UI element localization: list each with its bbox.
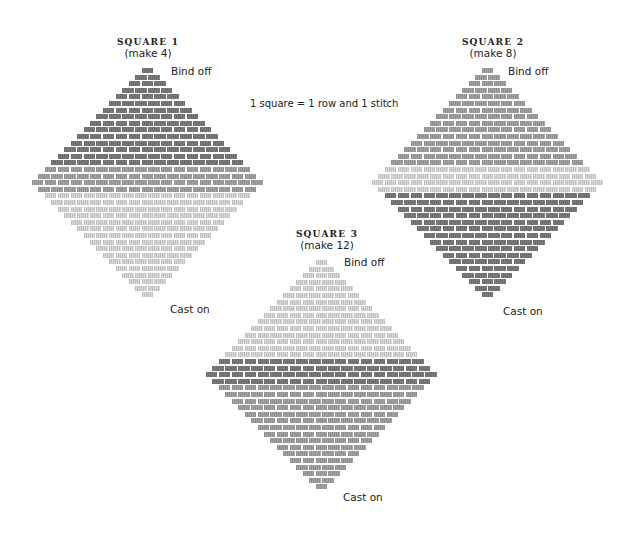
- stitch-cell: [501, 193, 513, 198]
- stitch-cell: [200, 220, 212, 225]
- stitch-cell: [316, 260, 328, 265]
- stitch-cell: [322, 333, 334, 338]
- stitch-cell: [238, 379, 250, 384]
- stitch-cell: [219, 174, 231, 179]
- stitch-cell: [270, 346, 282, 351]
- stitch-cell: [148, 286, 160, 291]
- stitch-cell: [96, 246, 108, 251]
- stitch-cell: [354, 326, 366, 331]
- stitch-cell: [64, 187, 76, 192]
- stitch-cell: [270, 399, 282, 404]
- stitch-cell: [475, 286, 487, 291]
- stitch-cell: [277, 313, 289, 318]
- stitch-cell: [514, 246, 526, 251]
- stitch-cell: [533, 121, 545, 126]
- stitch-cell: [296, 465, 308, 470]
- stitch-cell: [430, 174, 442, 179]
- stitch-cell: [378, 187, 390, 192]
- stitch-cell: [109, 141, 121, 146]
- stitch-cell: [417, 187, 429, 192]
- stitch-cell: [148, 207, 160, 212]
- stitch-cell: [456, 226, 468, 231]
- stitch-cell: [341, 432, 353, 437]
- stitch-cell: [553, 180, 565, 185]
- stitch-cell: [520, 187, 532, 192]
- stitch-cell: [361, 306, 373, 311]
- stitch-cell: [348, 293, 360, 298]
- stitch-cell: [71, 220, 83, 225]
- stitch-cell: [71, 154, 83, 159]
- stitch-cell: [135, 114, 147, 119]
- stitch-cell: [103, 108, 115, 113]
- stitch-cell: [142, 160, 154, 165]
- stitch-cell: [456, 266, 468, 271]
- stitch-cell: [514, 101, 526, 106]
- stitch-cell: [180, 147, 192, 152]
- stitch-cell: [341, 366, 353, 371]
- stitch-cell: [167, 200, 179, 205]
- stitch-cell: [520, 213, 532, 218]
- stitch-cell: [398, 180, 410, 185]
- stitch-cell: [135, 207, 147, 212]
- stitch-cell: [374, 333, 386, 338]
- stitch-cell: [225, 193, 237, 198]
- stitch-cell: [180, 226, 192, 231]
- stitch-cell: [335, 465, 347, 470]
- stitch-cell: [424, 127, 436, 132]
- stitch-cell: [174, 101, 186, 106]
- stitch-cell: [335, 359, 347, 364]
- stitch-cell: [488, 101, 500, 106]
- stitch-cell: [443, 108, 455, 113]
- stitch-cell: [316, 286, 328, 291]
- stitch-cell: [264, 366, 276, 371]
- stitch-cell: [135, 259, 147, 264]
- stitch-cell: [258, 425, 270, 430]
- stitch-cell: [335, 346, 347, 351]
- stitch-cell: [322, 359, 334, 364]
- stitch-cell: [174, 141, 186, 146]
- stitch-cell: [393, 405, 405, 410]
- square-1-make-count: (make 4): [108, 47, 188, 59]
- stitch-cell: [225, 379, 237, 384]
- stitch-cell: [167, 226, 179, 231]
- stitch-cell: [578, 193, 590, 198]
- stitch-cell: [180, 134, 192, 139]
- stitch-cell: [404, 174, 416, 179]
- stitch-cell: [270, 333, 282, 338]
- stitch-cell: [200, 167, 212, 172]
- stitch-cell: [264, 405, 276, 410]
- stitch-cell: [303, 418, 315, 423]
- stitch-cell: [116, 121, 128, 126]
- stitch-cell: [303, 300, 315, 305]
- stitch-cell: [462, 127, 474, 132]
- stitch-cell: [469, 279, 481, 284]
- stitch-cell: [354, 392, 366, 397]
- stitch-cell: [469, 174, 481, 179]
- stitch-cell: [520, 160, 532, 165]
- stitch-cell: [96, 154, 108, 159]
- stitch-cell: [514, 259, 526, 264]
- stitch-cell: [328, 418, 340, 423]
- stitch-cell: [488, 246, 500, 251]
- stitch-cell: [142, 147, 154, 152]
- stitch-cell: [494, 174, 506, 179]
- stitch-cell: [462, 246, 474, 251]
- stitch-cell: [533, 226, 545, 231]
- stitch-cell: [411, 141, 423, 146]
- stitch-cell: [367, 366, 379, 371]
- stitch-cell: [167, 253, 179, 258]
- stitch-cell: [501, 180, 513, 185]
- stitch-cell: [380, 379, 392, 384]
- stitch-cell: [387, 412, 399, 417]
- stitch-cell: [462, 167, 474, 172]
- stitch-cell: [520, 200, 532, 205]
- stitch-cell: [430, 121, 442, 126]
- stitch-cell: [316, 326, 328, 331]
- stitch-cell: [380, 418, 392, 423]
- stitch-cell: [277, 352, 289, 357]
- stitch-cell: [527, 127, 539, 132]
- stitch-cell: [514, 233, 526, 238]
- stitch-cell: [258, 319, 270, 324]
- stitch-cell: [245, 187, 257, 192]
- stitch-cell: [424, 233, 436, 238]
